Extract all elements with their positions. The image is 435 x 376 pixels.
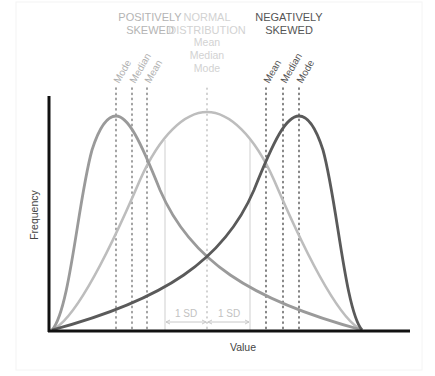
negative-skew-marker-lines <box>266 88 299 330</box>
normal-heading-1: NORMAL <box>183 11 230 23</box>
sd-right-label: 1 SD <box>218 308 240 319</box>
y-axis-label: Frequency <box>28 189 40 239</box>
x-axis-label: Value <box>230 341 256 353</box>
normal-mode-label: Mode <box>194 62 220 74</box>
sd-left-label: 1 SD <box>175 308 197 319</box>
positive-skew-marker-lines <box>116 88 147 330</box>
positive-skew-heading-1: POSITIVELY <box>118 11 182 23</box>
normal-heading-2: DISTRIBUTION <box>168 24 246 36</box>
positive-skew-heading-2: SKEWED <box>126 24 174 36</box>
skewness-diagram: 1 SD 1 SD Frequency Value POSITIVELY SKE… <box>0 0 435 376</box>
normal-mean-label: Mean <box>194 36 220 48</box>
negative-skew-heading-1: NEGATIVELY <box>255 11 323 23</box>
negative-skew-heading-2: SKEWED <box>265 24 313 36</box>
normal-median-label: Median <box>190 49 225 61</box>
